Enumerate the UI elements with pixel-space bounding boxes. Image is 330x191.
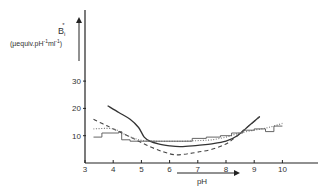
series-group <box>94 106 283 155</box>
x-tick-label: 9 <box>252 165 257 174</box>
y-ticks: 102030 <box>72 77 86 141</box>
x-axis-label: pH <box>177 173 237 186</box>
y-tick-label: 30 <box>72 77 81 86</box>
y-tick-label: 10 <box>72 132 81 141</box>
x-tick-label: 10 <box>278 165 287 174</box>
y-tick-label: 20 <box>72 104 81 113</box>
y-label-close: ) <box>60 40 62 48</box>
series-staircase-line <box>94 126 283 141</box>
y-label-sup: * <box>62 22 65 28</box>
y-axis-label: Bi* (µequiv.pH-1ml-1) <box>10 20 79 61</box>
x-tick-label: 5 <box>139 165 144 174</box>
x-tick-label: 3 <box>83 165 88 174</box>
svg-text:(µequiv.pH-1ml-1): (µequiv.pH-1ml-1) <box>10 38 62 48</box>
svg-text:Bi*: Bi* <box>58 22 65 37</box>
x-ticks: 345678910 <box>83 160 288 174</box>
x-tick-label: 4 <box>111 165 116 174</box>
chart: 102030 345678910 Bi* (µequiv.pH-1ml-1) p… <box>0 0 330 191</box>
y-label-sub: i <box>64 31 65 37</box>
x-tick-label: 6 <box>167 165 172 174</box>
axes: 102030 345678910 <box>72 10 318 174</box>
x-label-text: pH <box>197 177 207 186</box>
y-label-units: (µequiv.pH <box>10 40 43 48</box>
series-dashed-line <box>94 117 260 155</box>
